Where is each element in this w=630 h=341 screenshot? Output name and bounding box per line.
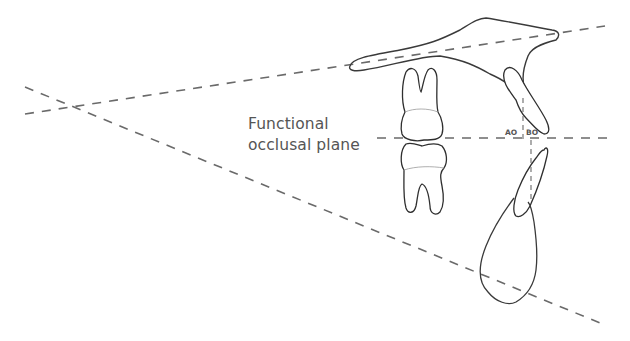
diagram-canvas bbox=[0, 0, 630, 341]
upper-molar bbox=[401, 68, 443, 140]
functional-occlusal-plane-label: Functional occlusal plane bbox=[248, 114, 360, 156]
functional-occlusal-plane-label-line2: occlusal plane bbox=[248, 135, 360, 156]
mandible-symphysis-outline bbox=[480, 198, 537, 304]
maxilla-outline bbox=[350, 18, 559, 98]
wits-appraisal-diagram: Functional occlusal plane AO BO bbox=[0, 0, 630, 341]
ao-label: AO bbox=[505, 128, 517, 137]
upper-incisor bbox=[504, 68, 549, 134]
functional-occlusal-plane-label-line1: Functional bbox=[248, 114, 360, 135]
bo-label: BO bbox=[526, 128, 538, 137]
lower-molar bbox=[401, 143, 446, 214]
